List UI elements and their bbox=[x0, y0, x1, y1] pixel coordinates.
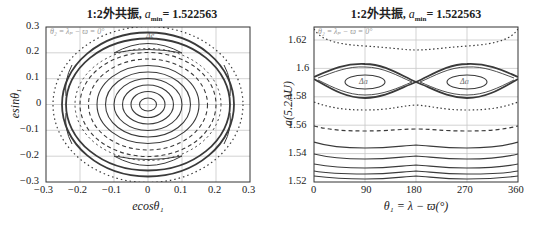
left-grid bbox=[46, 27, 250, 182]
plots-canvas bbox=[0, 0, 536, 225]
right-plot bbox=[314, 27, 518, 182]
left-plot bbox=[46, 27, 250, 183]
figure: 1:2外共振, amin= 1.522563 0.3 0.2 0.1 0 −0.… bbox=[0, 0, 536, 225]
